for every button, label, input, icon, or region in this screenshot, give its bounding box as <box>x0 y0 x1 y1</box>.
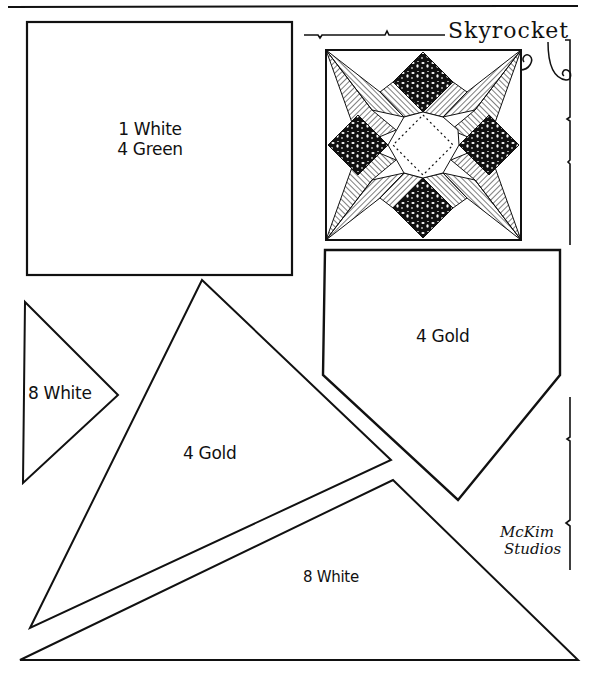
square-piece-label: 1 White 4 Green <box>90 120 210 159</box>
quilt-pattern-sheet: 1 White 4 Green 8 White 4 Gold 4 Gold 8 … <box>0 0 611 676</box>
title-curl-right <box>548 42 571 80</box>
bottom-triangle-label: 8 White <box>303 569 359 586</box>
small-triangle-label: 8 White <box>28 384 92 404</box>
credit-line2: Studios <box>504 541 561 558</box>
square-label-line2: 4 Green <box>90 140 210 160</box>
skyrocket-block-illustration <box>326 50 521 240</box>
right-bracket-lower <box>566 397 570 570</box>
top-rule <box>8 6 578 7</box>
pentagon-label: 4 Gold <box>416 327 470 347</box>
square-label-line1: 1 White <box>90 120 210 140</box>
pattern-title: Skyrocket <box>448 18 569 43</box>
pattern-credit: McKim Studios <box>500 524 561 557</box>
title-leader <box>304 31 445 38</box>
large-triangle-label: 4 Gold <box>183 444 237 464</box>
credit-line1: McKim <box>500 524 561 541</box>
